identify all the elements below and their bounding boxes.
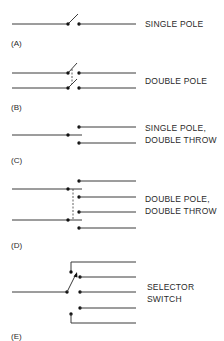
switch-e-label-line2: SWITCH [147,294,182,304]
switch-e-label-line1: SELECTOR [147,282,194,292]
switch-d-label-line1: DOUBLE POLE, [145,194,210,204]
switch-d-dpdt: DOUBLE POLE, DOUBLE THROW (D) [11,179,217,250]
switch-diagram: SINGLE POLE (A) DOUBLE POLE (B) SINGLE P… [0,0,224,341]
arrow-icon [74,272,78,278]
switch-b-double-pole: DOUBLE POLE (B) [11,63,207,112]
switch-e-tag: (E) [11,332,22,341]
switch-a-label: SINGLE POLE [145,19,204,29]
switch-d-label-line2: DOUBLE THROW [145,206,217,216]
switch-c-tag: (C) [11,156,22,165]
switch-c-label-line2: DOUBLE THROW [145,135,217,145]
switch-b-label: DOUBLE POLE [145,76,207,86]
switch-blade [68,14,78,24]
switch-c-label-line1: SINGLE POLE, [145,123,206,133]
switch-b-tag: (B) [11,103,22,112]
switch-d-tag: (D) [11,241,22,250]
switch-c-spdt: SINGLE POLE, DOUBLE THROW (C) [11,123,217,165]
switch-a-single-pole: SINGLE POLE (A) [11,14,204,48]
switch-a-tag: (A) [11,39,22,48]
switch-e-selector: SELECTOR SWITCH (E) [11,262,194,341]
